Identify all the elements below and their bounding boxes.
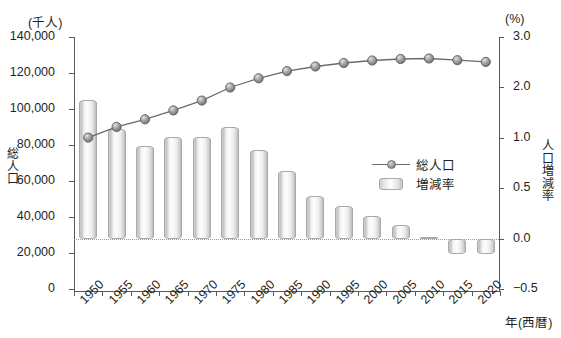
data-point xyxy=(481,57,490,66)
left-tick-label: 100,000 xyxy=(0,101,55,115)
right-tick-label: 3.0 xyxy=(513,29,559,43)
legend-label: 増減率 xyxy=(416,174,455,193)
right-tick-label: 2.0 xyxy=(513,79,559,93)
legend-label: 総人口 xyxy=(416,155,455,174)
right-tick-label: 0.5 xyxy=(513,180,559,194)
right-tick-label: 1.0 xyxy=(513,130,559,144)
left-tick-label: 140,000 xyxy=(0,29,55,43)
data-point xyxy=(84,133,93,142)
data-point xyxy=(226,83,235,92)
bar-swatch-icon xyxy=(372,177,410,191)
legend-item-increase-rate: 増減率 xyxy=(372,174,455,193)
left-tick-label: 120,000 xyxy=(0,65,55,79)
left-tick-label: 20,000 xyxy=(0,245,55,259)
right-axis-unit: (%) xyxy=(505,12,524,26)
line-marker-icon xyxy=(372,158,410,172)
right-tick-label: −0.5 xyxy=(513,281,559,295)
x-tick xyxy=(500,291,501,296)
left-tick-label: 0 xyxy=(0,281,55,295)
data-point xyxy=(339,58,348,67)
data-point xyxy=(396,54,405,63)
population-chart: (千人) (%) 総人口 人口増減率 140,000120,000100,000… xyxy=(0,0,561,338)
left-tick-label: 40,000 xyxy=(0,209,55,223)
data-point xyxy=(254,74,263,83)
x-axis-title: 年(西暦) xyxy=(505,312,552,331)
chart-legend: 総人口 増減率 xyxy=(372,155,455,193)
left-tick-label: 80,000 xyxy=(0,137,55,151)
data-point xyxy=(368,56,377,65)
data-point xyxy=(311,62,320,71)
data-point xyxy=(453,56,462,65)
data-point xyxy=(197,96,206,105)
right-tick-label: 0.0 xyxy=(513,231,559,245)
left-tick-label: 60,000 xyxy=(0,173,55,187)
data-point xyxy=(282,67,291,76)
data-point xyxy=(424,54,433,63)
data-point xyxy=(169,106,178,115)
data-point xyxy=(112,122,121,131)
legend-item-total-population: 総人口 xyxy=(372,155,455,174)
data-point xyxy=(140,115,149,124)
